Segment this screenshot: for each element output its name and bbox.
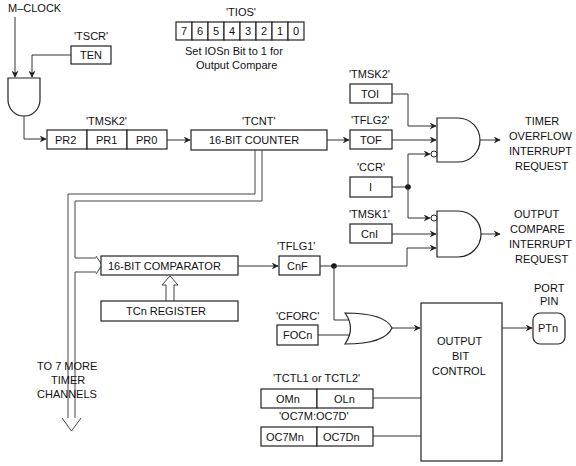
svg-text:REQUEST: REQUEST xyxy=(515,160,568,172)
svg-text:TO 7 MORE: TO 7 MORE xyxy=(37,360,97,372)
tcn-register: TCn REGISTER xyxy=(101,301,238,321)
svg-text:OC7Mn: OC7Mn xyxy=(266,431,304,443)
svg-text:'CCR': 'CCR' xyxy=(357,161,385,173)
ccr-i-register: 'CCR' I xyxy=(350,161,392,197)
svg-text:'TIOS': 'TIOS' xyxy=(226,6,256,18)
overflow-and-gate xyxy=(437,118,480,162)
svg-text:OLn: OLn xyxy=(334,393,355,405)
svg-text:COMPARE: COMPARE xyxy=(510,223,565,235)
svg-text:'TFLG2': 'TFLG2' xyxy=(351,114,389,126)
svg-text:0: 0 xyxy=(293,25,299,37)
oc7-register: 'OC7M:OC7D' OC7Mn OC7Dn xyxy=(261,410,373,446)
svg-text:PR1: PR1 xyxy=(96,134,117,146)
svg-text:PORT: PORT xyxy=(534,282,565,294)
output-compare-interrupt-label: OUTPUT COMPARE INTERRUPT REQUEST xyxy=(509,208,572,265)
svg-text:CONTROL: CONTROL xyxy=(432,365,486,377)
tmsk2-prescaler-register: 'TMSK2' PR2 PR1 PR0 xyxy=(47,115,167,149)
svg-text:CnF: CnF xyxy=(287,260,308,272)
tflg1-cnf-register: 'TFLG1' CnF xyxy=(277,240,320,275)
svg-text:TEN: TEN xyxy=(80,49,102,61)
svg-text:'TSCR': 'TSCR' xyxy=(74,30,108,42)
svg-text:CnI: CnI xyxy=(361,228,378,240)
svg-text:PIN: PIN xyxy=(540,295,558,307)
svg-text:16-BIT COMPARATOR: 16-BIT COMPARATOR xyxy=(108,260,221,272)
svg-text:INTERRUPT: INTERRUPT xyxy=(509,145,572,157)
tctl-register: 'TCTL1 or TCTL2' OMn OLn xyxy=(261,372,373,408)
svg-text:I: I xyxy=(369,181,372,193)
tcnt-16bit-counter: 'TCNT' 16-BIT COUNTER xyxy=(191,115,327,150)
port-pin: PORT PIN PTn xyxy=(533,282,565,344)
svg-text:TIMER: TIMER xyxy=(51,374,85,386)
svg-text:16-BIT COUNTER: 16-BIT COUNTER xyxy=(209,134,299,146)
tmsk2-toi-register: 'TMSK2' TOI xyxy=(349,68,392,103)
tscr-register: 'TSCR' TEN xyxy=(71,30,111,64)
tios-register: 'TIOS' 7 6 5 4 3 2 1 0 Set IOSn Bit to 1… xyxy=(176,6,304,71)
svg-text:'TMSK1': 'TMSK1' xyxy=(349,208,390,220)
svg-text:'TCNT': 'TCNT' xyxy=(242,115,276,127)
svg-text:2: 2 xyxy=(261,25,267,37)
svg-text:PR2: PR2 xyxy=(55,134,76,146)
svg-text:OUTPUT: OUTPUT xyxy=(514,208,560,220)
m-clock-label: M–CLOCK xyxy=(8,2,62,14)
16bit-comparator: 16-BIT COMPARATOR xyxy=(101,256,238,275)
svg-text:7: 7 xyxy=(181,25,187,37)
svg-text:TOI: TOI xyxy=(361,88,379,100)
svg-text:'OC7M:OC7D': 'OC7M:OC7D' xyxy=(279,410,349,422)
svg-text:Output Compare: Output Compare xyxy=(196,59,277,71)
svg-text:'CFORC': 'CFORC' xyxy=(276,310,319,322)
svg-text:'TFLG1': 'TFLG1' xyxy=(277,240,315,252)
svg-text:TCn REGISTER: TCn REGISTER xyxy=(126,305,206,317)
svg-text:INTERRUPT: INTERRUPT xyxy=(509,238,572,250)
svg-text:OC7Dn: OC7Dn xyxy=(323,431,360,443)
svg-text:BIT: BIT xyxy=(452,350,469,362)
svg-text:TIMER: TIMER xyxy=(525,115,559,127)
svg-text:REQUEST: REQUEST xyxy=(515,253,568,265)
output-compare-and-gate xyxy=(437,211,481,257)
svg-text:6: 6 xyxy=(197,25,203,37)
svg-text:'TCTL1 or TCTL2': 'TCTL1 or TCTL2' xyxy=(273,372,360,384)
svg-text:'TMSK2': 'TMSK2' xyxy=(349,68,390,80)
svg-text:5: 5 xyxy=(213,25,219,37)
timer-block-diagram: M–CLOCK 'TSCR' TEN 'TMSK2' PR2 PR1 PR0 '… xyxy=(0,0,576,466)
clock-enable-and-gate xyxy=(8,78,40,116)
svg-text:OVERFLOW: OVERFLOW xyxy=(509,130,573,142)
svg-text:PTn: PTn xyxy=(538,322,558,334)
tmsk1-cni-register: 'TMSK1' CnI xyxy=(349,208,392,243)
svg-text:Set IOSn Bit to 1 for: Set IOSn Bit to 1 for xyxy=(185,45,283,57)
svg-text:1: 1 xyxy=(277,25,283,37)
svg-text:4: 4 xyxy=(229,25,235,37)
timer-overflow-interrupt-label: TIMER OVERFLOW INTERRUPT REQUEST xyxy=(509,115,573,172)
svg-text:CHANNELS: CHANNELS xyxy=(37,388,97,400)
svg-text:OMn: OMn xyxy=(276,393,300,405)
cforc-focn-register: 'CFORC' FOCn xyxy=(276,310,319,345)
svg-text:OUTPUT: OUTPUT xyxy=(437,335,483,347)
svg-text:TOF: TOF xyxy=(360,134,382,146)
output-bit-control: OUTPUT BIT CONTROL xyxy=(421,303,502,461)
svg-text:FOCn: FOCn xyxy=(283,329,312,341)
tflg2-tof-register: 'TFLG2' TOF xyxy=(350,114,392,149)
force-or-gate xyxy=(345,313,392,344)
more-channels-label: TO 7 MORE TIMER CHANNELS xyxy=(37,360,97,400)
svg-text:'TMSK2': 'TMSK2' xyxy=(86,115,127,127)
svg-text:3: 3 xyxy=(245,25,251,37)
svg-text:PR0: PR0 xyxy=(136,134,157,146)
